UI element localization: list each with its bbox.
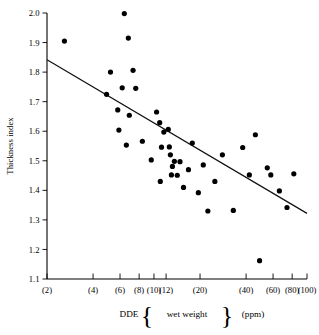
data-point: [133, 86, 138, 91]
data-point: [116, 127, 121, 132]
scatter-plot-figure: 1.11.21.31.41.51.61.71.81.92.0(2)(4)(6)(…: [0, 0, 319, 335]
y-tick-label-1.7: 1.7: [29, 97, 40, 107]
data-point: [115, 107, 120, 112]
data-point: [158, 179, 163, 184]
data-point: [291, 171, 296, 176]
x-tick-label-8: (8): [134, 285, 144, 295]
data-point: [172, 159, 177, 164]
data-point: [170, 164, 175, 169]
y-tick-label-1.6: 1.6: [29, 126, 40, 136]
data-point: [120, 85, 125, 90]
x-axis-title-brace-open: {: [141, 301, 153, 330]
data-point: [284, 205, 289, 210]
data-point: [124, 143, 129, 148]
data-point: [159, 145, 164, 150]
data-point: [186, 167, 191, 172]
x-axis-title-brace-close: }: [221, 301, 233, 330]
data-point: [253, 132, 258, 137]
data-point: [166, 127, 171, 132]
data-point: [265, 165, 270, 170]
data-point: [167, 144, 172, 149]
data-point: [122, 11, 127, 16]
data-point: [127, 113, 132, 118]
data-point: [240, 145, 245, 150]
data-point: [161, 130, 166, 135]
x-axis-title-suffix: (ppm): [242, 309, 264, 319]
data-point: [247, 172, 252, 177]
data-point: [190, 140, 195, 145]
x-tick-label-20: (20): [193, 285, 207, 295]
data-point: [126, 36, 131, 41]
x-tick-label-2: (2): [42, 285, 52, 295]
y-tick-label-1.3: 1.3: [29, 215, 40, 225]
y-tick-label-1.4: 1.4: [29, 185, 40, 195]
data-point: [157, 120, 162, 125]
x-tick-label-40: (40): [239, 285, 253, 295]
x-tick-label-6: (6): [115, 285, 125, 295]
data-point: [257, 258, 262, 263]
data-point: [268, 172, 273, 177]
y-tick-label-1.8: 1.8: [29, 67, 40, 77]
y-tick-label-2.0: 2.0: [29, 8, 40, 18]
data-point: [205, 208, 210, 213]
data-point: [201, 162, 206, 167]
data-point: [154, 109, 159, 114]
y-tick-label-1.1: 1.1: [29, 274, 40, 284]
data-point: [149, 157, 154, 162]
y-tick-label-1.9: 1.9: [29, 38, 40, 48]
y-axis-title: Thickness index: [5, 117, 15, 175]
data-point: [169, 172, 174, 177]
plot-canvas: 1.11.21.31.41.51.61.71.81.92.0(2)(4)(6)(…: [0, 0, 319, 335]
x-tick-label-60: (60): [266, 285, 280, 295]
data-point: [140, 139, 145, 144]
data-point: [277, 188, 282, 193]
y-tick-label-1.2: 1.2: [29, 245, 40, 255]
data-point: [168, 152, 173, 157]
regression-line: [47, 60, 307, 214]
data-point: [212, 179, 217, 184]
data-point: [220, 152, 225, 157]
x-axis-title-prefix: DDE: [120, 309, 139, 319]
data-point: [104, 92, 109, 97]
data-point: [231, 208, 236, 213]
x-tick-label-12: (12): [159, 285, 173, 295]
x-tick-label-100: (100): [298, 285, 317, 295]
data-point: [175, 173, 180, 178]
x-axis-title-inner: wet weight: [167, 309, 208, 319]
data-point: [177, 159, 182, 164]
y-tick-label-1.5: 1.5: [29, 156, 40, 166]
x-tick-label-4: (4): [88, 285, 98, 295]
data-point: [181, 185, 186, 190]
data-point: [130, 68, 135, 73]
data-point: [62, 38, 67, 43]
data-point: [108, 70, 113, 75]
data-point: [196, 190, 201, 195]
